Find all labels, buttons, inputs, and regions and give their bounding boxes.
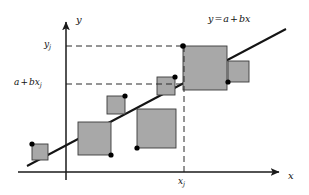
residual-squares-group (32, 46, 249, 160)
data-point-3 (122, 93, 127, 98)
data-point-4 (134, 145, 139, 150)
x-j-subscript: j (183, 180, 185, 188)
residual-square-3 (107, 96, 125, 114)
line-equation-label: y=a+bx (208, 14, 250, 24)
plus-sign: + (19, 77, 29, 87)
equation-plus: + (229, 13, 239, 24)
fitted-value-tick-label: a+bxj (14, 78, 42, 88)
y-axis-label: y (76, 15, 82, 25)
regression-diagram: y x yj a+bxj xj y=a+bx (0, 0, 309, 195)
data-point-1 (29, 141, 34, 146)
residual-square-2 (78, 122, 111, 155)
diagram-canvas (0, 0, 309, 195)
equals-sign: = (213, 13, 223, 24)
y-j-subscript: j (49, 43, 51, 51)
data-point-6-xj-yj (180, 43, 186, 49)
data-point-5 (172, 74, 177, 79)
residual-square-6-highlighted (183, 46, 227, 90)
residual-square-7 (228, 61, 249, 82)
x-axis-label: x (288, 171, 294, 181)
x-j-tick-label: xj (178, 177, 185, 187)
data-point-2 (108, 152, 113, 157)
fitted-subscript: j (40, 81, 42, 89)
equation-variable: x (245, 13, 250, 24)
data-point-7 (225, 79, 230, 84)
residual-square-4 (137, 109, 176, 148)
y-j-tick-label: yj (44, 40, 51, 50)
residual-square-5 (157, 77, 175, 95)
residual-square-1 (32, 144, 48, 160)
